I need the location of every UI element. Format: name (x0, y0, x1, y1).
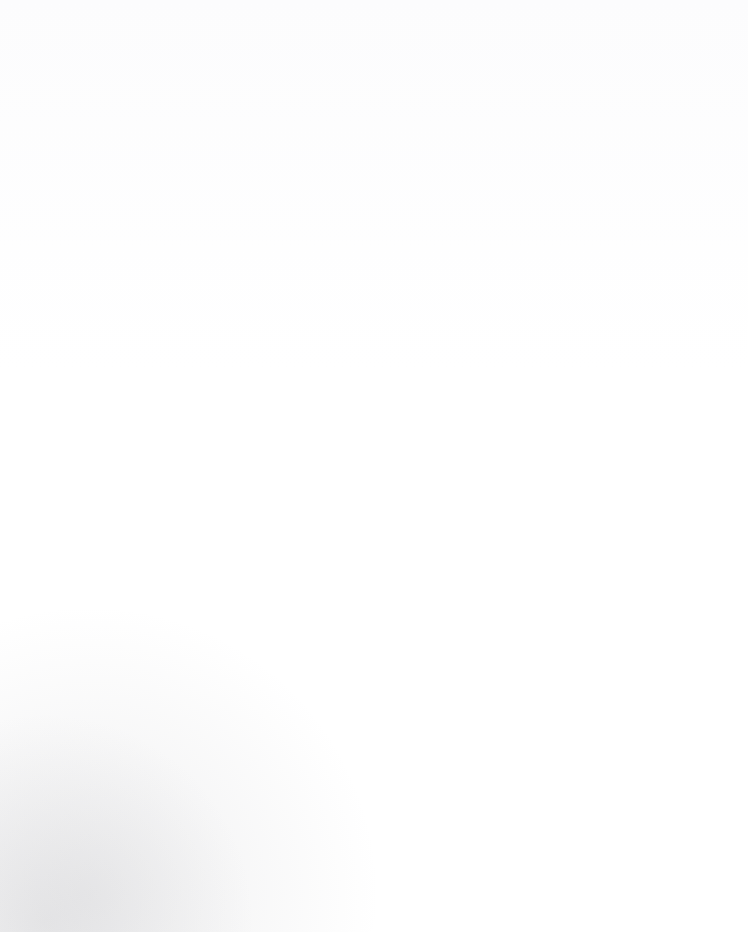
cap-button (544, 758, 547, 761)
paper-background (0, 0, 748, 932)
sketch-page: CAST (0, 0, 748, 932)
drawing-canvas: CAST (0, 0, 748, 932)
